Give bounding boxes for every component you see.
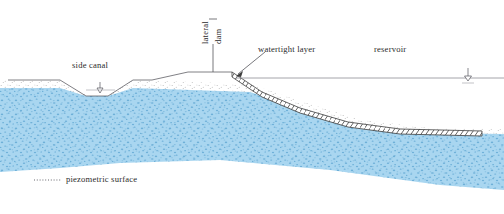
reservoir-water-level-marker [462,68,474,83]
label-watertight-layer: watertight layer [258,44,315,54]
label-lateral: lateral [200,21,210,44]
label-side-canal: side canal [72,60,108,70]
label-reservoir: reservoir [374,44,406,54]
figure-canvas: side canal lateral dam watertight layer … [0,0,504,214]
label-dam: dam [213,29,223,44]
label-piezometric-surface: piezometric surface [66,174,137,184]
canal-water-level-marker [86,82,115,93]
